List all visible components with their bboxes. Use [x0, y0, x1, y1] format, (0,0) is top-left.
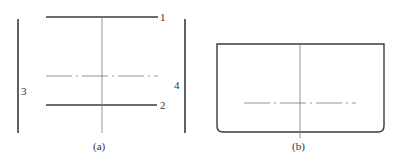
- caption-b: (b): [292, 140, 305, 153]
- diagram-canvas: 1 2 3 4 (a) (b): [0, 0, 394, 161]
- figure-b: (b): [217, 44, 384, 153]
- caption-a: (a): [93, 140, 106, 153]
- label-2: 2: [160, 99, 166, 111]
- container-outline: [217, 44, 384, 132]
- label-4: 4: [174, 79, 180, 91]
- label-3: 3: [21, 85, 27, 97]
- figure-a: 1 2 3 4 (a): [18, 11, 185, 153]
- label-1: 1: [160, 11, 166, 23]
